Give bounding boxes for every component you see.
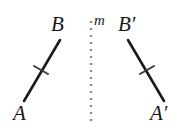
line-label-m: m [94, 13, 105, 28]
point-label-a-prime: A′ [150, 103, 167, 124]
point-label-b-prime: B′ [118, 14, 135, 35]
geometry-figure: A B A′ B′ m [0, 0, 185, 138]
point-label-b: B [51, 14, 64, 35]
point-label-a: A [13, 103, 26, 124]
